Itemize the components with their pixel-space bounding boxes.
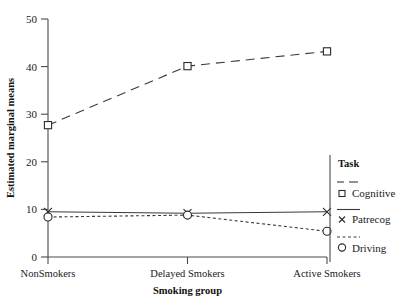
marker-square: [184, 63, 191, 70]
x-category-label-active-smokers: Active Smokers: [293, 268, 360, 279]
y-tick-label-20: 20: [26, 156, 38, 168]
legend-square-icon: [339, 191, 345, 197]
legend-label-driving: Driving: [352, 242, 387, 254]
legend-title: Task: [338, 158, 359, 169]
marker-circle: [44, 213, 52, 221]
chart-container: 50 40 30 20 10 0 Estimated marginal mean…: [0, 0, 403, 307]
legend-label-patrecog: Patrecog: [352, 213, 391, 225]
data-point-driving-0[interactable]: [44, 213, 52, 221]
data-point-driving-1[interactable]: [184, 211, 192, 219]
legend-circle-icon: [338, 244, 345, 251]
data-point-cognitive-0[interactable]: [44, 122, 51, 129]
line-chart: 50 40 30 20 10 0 Estimated marginal mean…: [0, 0, 403, 307]
y-tick-label-30: 30: [26, 108, 38, 120]
data-point-cognitive-1[interactable]: [184, 63, 191, 70]
x-category-label-nonsmokers: NonSmokers: [21, 268, 76, 279]
y-tick-label-50: 50: [26, 13, 38, 25]
legend-label-cognitive: Cognitive: [352, 187, 396, 199]
y-tick-label-40: 40: [26, 61, 38, 73]
chart-background: [0, 0, 403, 307]
y-tick-label-0: 0: [32, 251, 38, 263]
y-tick-label-10: 10: [26, 203, 38, 215]
x-axis-title: Smoking group: [153, 285, 222, 296]
y-axis-title: Estimated marginal means: [5, 78, 16, 198]
marker-square: [323, 48, 330, 55]
x-category-label-delayed-smokers: Delayed Smokers: [150, 268, 224, 279]
data-point-cognitive-2[interactable]: [323, 48, 330, 55]
marker-circle: [184, 211, 192, 219]
marker-square: [44, 122, 51, 129]
